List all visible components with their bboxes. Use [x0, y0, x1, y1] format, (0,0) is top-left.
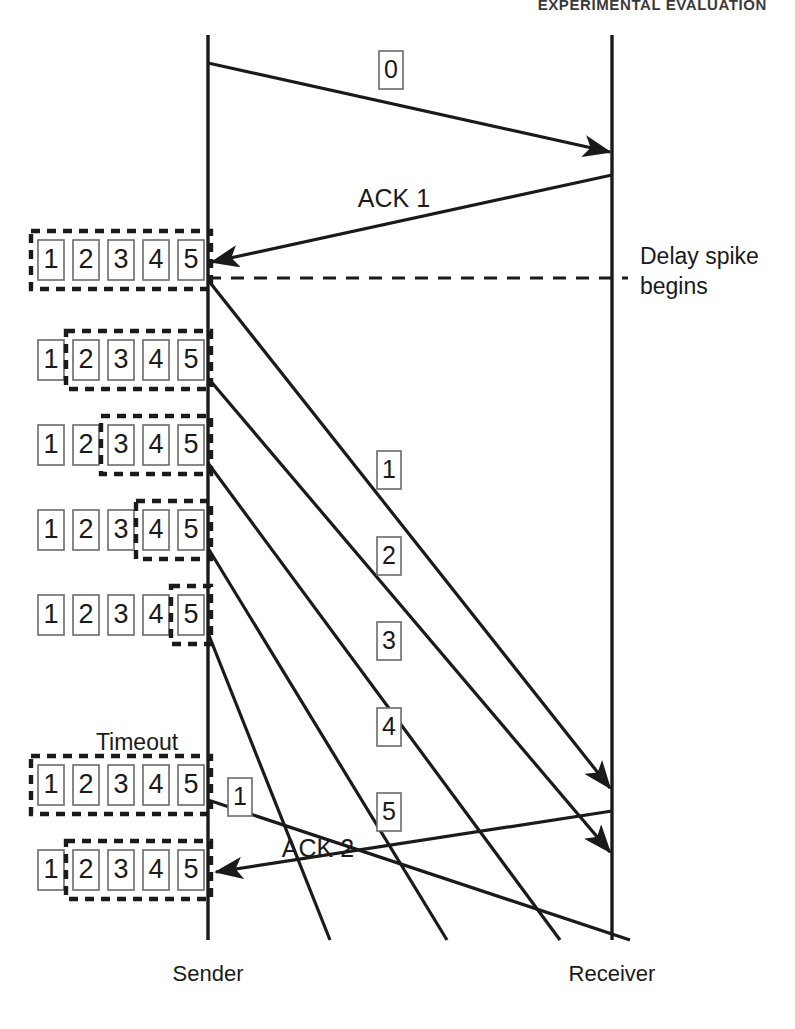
data-packet-1-retransmit-label: 1: [233, 782, 247, 810]
window-row-5: 12345: [38, 586, 211, 644]
window-row-1-slot-label-4: 4: [148, 244, 163, 274]
window-row-1: 12345: [31, 231, 211, 289]
window-row-6-slot-label-4: 4: [148, 769, 163, 799]
window-row-1-slot-label-5: 5: [183, 244, 198, 274]
ack-2-line: [216, 811, 612, 872]
window-row-2-slot-label-4: 4: [148, 344, 163, 374]
sequence-diagram-canvas: 0ACK 1123451ACK 2 1234512345123451234512…: [0, 0, 795, 1029]
window-row-3-slot-label-1: 1: [43, 429, 58, 459]
lifelines-group: [208, 35, 612, 940]
ack-2-label: ACK 2: [282, 834, 354, 862]
data-packet-1-line: [208, 280, 610, 788]
data-packet-0: 0: [208, 51, 610, 152]
window-row-2-slot-label-5: 5: [183, 344, 198, 374]
window-row-4-slot-label-3: 3: [113, 514, 128, 544]
window-row-6-slot-label-3: 3: [113, 769, 128, 799]
messages-group: 0ACK 1123451ACK 2: [208, 51, 630, 940]
data-packet-3: 3: [208, 463, 560, 940]
window-row-3-slot-label-2: 2: [78, 429, 93, 459]
window-row-4-slot-label-2: 2: [78, 514, 93, 544]
receiver-label: Receiver: [569, 961, 656, 986]
window-row-2-slot-label-2: 2: [78, 344, 93, 374]
window-row-2-slot-label-1: 1: [43, 344, 58, 374]
sender-window-group: 12345123451234512345123451234512345: [31, 231, 211, 899]
window-row-3: 12345: [38, 416, 211, 474]
data-packet-1-label: 1: [382, 455, 396, 483]
window-row-1-slot-label-3: 3: [113, 244, 128, 274]
window-row-6-slot-label-2: 2: [78, 769, 93, 799]
window-row-3-slot-label-4: 4: [148, 429, 163, 459]
window-row-7-slot-label-5: 5: [183, 854, 198, 884]
window-row-2: 12345: [38, 331, 211, 389]
window-row-4-slot-label-4: 4: [148, 514, 163, 544]
data-packet-0-label: 0: [384, 55, 398, 83]
figure-root: EXPERIMENTAL EVALUATION 0ACK 1123451ACK …: [0, 0, 795, 1029]
window-row-4: 12345: [38, 501, 211, 559]
data-packet-4-label: 4: [382, 712, 396, 740]
window-row-7: 12345: [38, 841, 211, 899]
window-row-6-slot-label-1: 1: [43, 769, 58, 799]
sender-label: Sender: [173, 961, 244, 986]
data-packet-3-label: 3: [382, 626, 396, 654]
data-packet-2-label: 2: [382, 541, 396, 569]
timeout-annotation-text: Timeout: [96, 729, 179, 755]
window-row-1-slot-label-2: 2: [78, 244, 93, 274]
ack-2: ACK 2: [216, 811, 612, 872]
data-packet-4-line: [208, 548, 447, 940]
ack-1: ACK 1: [212, 175, 612, 262]
window-row-2-slot-label-3: 3: [113, 344, 128, 374]
data-packet-5-line: [208, 633, 330, 940]
data-packet-3-line: [208, 463, 560, 940]
window-row-5-slot-label-3: 3: [113, 599, 128, 629]
data-packet-1-retransmit-line: [208, 800, 630, 940]
window-row-5-slot-label-1: 1: [43, 599, 58, 629]
window-row-7-slot-label-2: 2: [78, 854, 93, 884]
delay-spike-label-line2: begins: [640, 273, 708, 299]
window-row-3-slot-label-3: 3: [113, 429, 128, 459]
data-packet-5-label: 5: [382, 797, 396, 825]
delay-spike-label-line1: Delay spike: [640, 243, 759, 269]
data-packet-4: 4: [208, 548, 447, 940]
window-row-5-slot-label-5: 5: [183, 599, 198, 629]
window-row-5-slot-label-4: 4: [148, 599, 163, 629]
ack-1-label: ACK 1: [358, 184, 430, 212]
window-row-4-slot-label-1: 1: [43, 514, 58, 544]
window-row-4-slot-label-5: 5: [183, 514, 198, 544]
window-row-6-slot-label-5: 5: [183, 769, 198, 799]
window-row-1-slot-label-1: 1: [43, 244, 58, 274]
window-row-7-slot-label-1: 1: [43, 854, 58, 884]
data-packet-0-line: [208, 63, 610, 152]
window-row-7-slot-label-3: 3: [113, 854, 128, 884]
window-row-6: 12345: [31, 756, 211, 814]
window-row-3-slot-label-5: 5: [183, 429, 198, 459]
running-head: EXPERIMENTAL EVALUATION: [538, 0, 767, 13]
data-packet-1: 1: [208, 280, 610, 788]
window-row-7-slot-label-4: 4: [148, 854, 163, 884]
window-row-5-slot-label-2: 2: [78, 599, 93, 629]
